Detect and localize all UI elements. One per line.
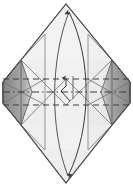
origami-diagram-root <box>0 0 133 187</box>
paper-lower-highlight <box>21 125 112 183</box>
paper-upper-highlight <box>21 4 112 60</box>
origami-figure <box>0 0 133 187</box>
